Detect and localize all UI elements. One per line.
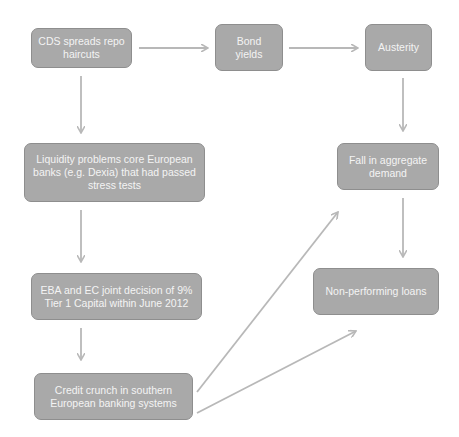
node-label: Bond yields xyxy=(230,35,268,61)
arrow-credit-to-npl xyxy=(197,331,356,413)
node-cds-spreads: CDS spreads repo haircuts xyxy=(31,28,132,68)
node-eba-ec-decision: EBA and EC joint decision of 9% Tier 1 C… xyxy=(31,273,202,320)
node-label: Non-performing loans xyxy=(326,285,427,298)
node-label: Credit crunch in southern European banki… xyxy=(41,384,186,410)
node-austerity: Austerity xyxy=(365,24,432,71)
node-label: Fall in aggregate demand xyxy=(344,154,432,180)
node-credit-crunch: Credit crunch in southern European banki… xyxy=(34,373,193,420)
flowchart-canvas: CDS spreads repo haircuts Bond yields Au… xyxy=(0,0,459,437)
node-label: EBA and EC joint decision of 9% Tier 1 C… xyxy=(38,284,195,310)
node-liquidity-problems: Liquidity problems core European banks (… xyxy=(24,143,205,202)
node-label: Austerity xyxy=(378,41,419,54)
node-fall-aggregate-demand: Fall in aggregate demand xyxy=(337,143,439,190)
node-bond-yields: Bond yields xyxy=(215,24,283,71)
node-label: Liquidity problems core European banks (… xyxy=(33,153,196,192)
node-label: CDS spreads repo haircuts xyxy=(38,35,125,61)
node-non-performing-loans: Non-performing loans xyxy=(313,268,439,315)
